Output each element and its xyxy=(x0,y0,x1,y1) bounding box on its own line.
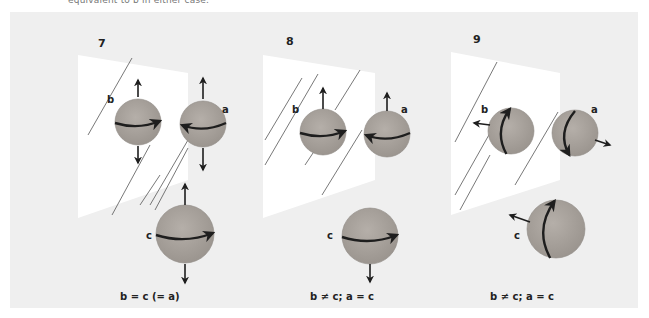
sphere-label: b xyxy=(107,94,114,105)
sphere-label: c xyxy=(146,230,152,241)
sphere-label: c xyxy=(327,230,333,241)
panel-7: 7bacb = c (= a) xyxy=(78,37,229,302)
mirror-symmetry-figure: 7bacb = c (= a)8bacb ≠ c; a = c9bacb ≠ c… xyxy=(0,0,649,318)
sphere-body xyxy=(342,208,398,264)
sphere-label: a xyxy=(401,104,408,115)
sphere-c: c xyxy=(327,208,398,282)
panel-8: 8bacb ≠ c; a = c xyxy=(263,35,410,302)
sphere-body xyxy=(527,200,585,258)
sphere-label: b xyxy=(481,104,488,115)
sphere-c: c xyxy=(146,184,214,283)
sphere-label: b xyxy=(292,104,299,115)
axis-arrow-icon xyxy=(510,215,530,222)
panel-caption: b ≠ c; a = c xyxy=(310,291,374,302)
panel-caption: b = c (= a) xyxy=(120,291,180,302)
figure-number: 8 xyxy=(286,35,294,48)
sphere-label: c xyxy=(514,230,520,241)
figure-number: 7 xyxy=(98,37,106,50)
sphere-a: a xyxy=(552,104,610,156)
sphere-body xyxy=(488,108,534,154)
sphere-body xyxy=(180,101,226,147)
sphere-c: c xyxy=(510,200,585,258)
sphere-body xyxy=(364,111,410,157)
panel-9: 9bacb ≠ c; a = c xyxy=(451,33,610,302)
figure-number: 9 xyxy=(473,33,481,46)
axis-arrow-icon xyxy=(595,140,610,145)
panel-caption: b ≠ c; a = c xyxy=(490,291,554,302)
sphere-body xyxy=(552,110,598,156)
sphere-body xyxy=(156,205,214,263)
sphere-label: a xyxy=(222,104,229,115)
sphere-label: a xyxy=(591,104,598,115)
